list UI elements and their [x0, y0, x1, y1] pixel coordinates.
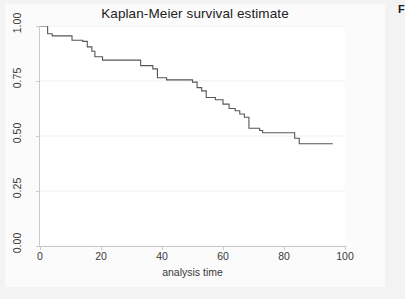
corner-mark-text: F — [398, 3, 405, 15]
x-tick-label: 0 — [20, 250, 60, 262]
y-tick-label: 1.00 — [0, 17, 34, 29]
x-tick-mark — [162, 247, 163, 250]
x-axis-label: analysis time — [40, 266, 345, 278]
x-tick-mark — [101, 247, 102, 250]
x-tick-label: 60 — [203, 250, 243, 262]
y-axis-line — [39, 26, 40, 247]
plot-area — [40, 26, 345, 246]
chart-title: Kaplan-Meier survival estimate — [5, 6, 385, 21]
x-tick-mark — [223, 247, 224, 250]
y-tick-label: 0.75 — [0, 72, 34, 84]
x-tick-label: 40 — [142, 250, 182, 262]
x-tick-label: 80 — [264, 250, 304, 262]
x-tick-label: 20 — [81, 250, 121, 262]
survival-curve-svg — [40, 26, 345, 246]
y-tick-mark — [36, 246, 39, 247]
y-tick-mark — [36, 136, 39, 137]
y-tick-label: 0.25 — [0, 182, 34, 194]
y-tick-mark — [36, 81, 39, 82]
y-tick-label: 0.50 — [0, 127, 34, 139]
y-tick-label: 0.00 — [0, 237, 34, 249]
y-tick-mark — [36, 191, 39, 192]
x-axis-line — [39, 246, 346, 247]
y-tick-mark — [36, 26, 39, 27]
gridlines-group — [40, 26, 345, 246]
x-tick-mark — [345, 247, 346, 250]
figure-canvas: Kaplan-Meier survival estimate F 0.000.2… — [0, 0, 405, 299]
x-tick-label: 100 — [325, 250, 365, 262]
survival-step-line — [40, 26, 333, 144]
x-tick-mark — [40, 247, 41, 250]
x-tick-mark — [284, 247, 285, 250]
